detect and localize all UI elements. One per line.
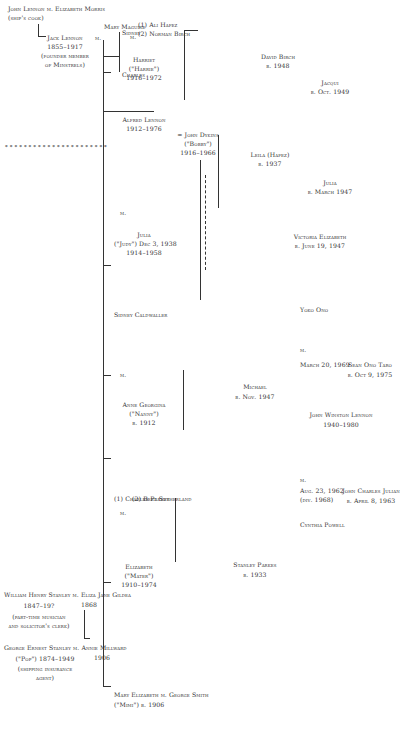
- person-yoko-ono: Yoko Ono: [300, 305, 328, 314]
- connector: [103, 40, 104, 80]
- dates: 1916–1972: [114, 73, 174, 82]
- married-label: m.: [47, 5, 53, 12]
- connector: [183, 370, 184, 430]
- connector: [200, 160, 201, 300]
- person-elizabeth: Elizabeth: [114, 562, 164, 571]
- married-label: m.: [120, 508, 126, 517]
- person-john-dykins: = John Dykins: [168, 130, 228, 139]
- person-julia-dykins: Julia: [300, 178, 360, 187]
- person-alfred-lennon: Alfred Lennon: [114, 115, 174, 124]
- connector: [103, 80, 104, 111]
- person-george-ernest-stanley: George Ernest Stanley: [4, 644, 71, 651]
- connector: [103, 458, 111, 459]
- family-tree-diagram: •••••••••••••••••••••• John Lennon m. El…: [0, 0, 406, 738]
- person-george-smith: George Smith: [169, 691, 209, 698]
- nickname: ("Harrie"): [114, 64, 174, 73]
- spouse-bert-sutherland: (2) Bert Sutherland: [132, 494, 192, 503]
- married-label: m.: [120, 208, 126, 217]
- dates: b. 1937: [240, 159, 300, 168]
- person-eliza-jane-gildea: Eliza Jane Gildea: [81, 591, 131, 598]
- nickname: ("Judy") Dec 3, 1938: [114, 239, 174, 248]
- marriage-year: 1868: [81, 600, 97, 609]
- married-label: m.: [73, 644, 79, 651]
- dates: 1912–1976: [114, 124, 174, 133]
- connector: [103, 582, 111, 583]
- person-harriet: Harriet: [114, 55, 174, 64]
- dates: ("Pop") 1874–1949: [4, 654, 86, 663]
- divorce-date: (div. 1968): [300, 495, 333, 504]
- note: and solicitor's clerk): [4, 621, 74, 630]
- connector: [103, 375, 111, 376]
- dotted-rule: ••••••••••••••••••••••: [4, 142, 108, 151]
- connector: [84, 610, 85, 638]
- dates: b. March 1947: [300, 187, 360, 196]
- connector: [103, 72, 111, 73]
- dates: b. 1912: [114, 418, 174, 427]
- person-sidney-caldwaller: Sidney Caldwaller: [114, 310, 167, 319]
- married-label: m.: [120, 370, 126, 379]
- married-label: m.: [95, 33, 101, 42]
- married-label: m.: [300, 345, 306, 354]
- person-stanley-parkes: Stanley Parkes: [225, 560, 285, 569]
- dashed-connector: [205, 175, 206, 270]
- spouse-ali-hafez: (1) Ali Hafez: [138, 20, 177, 29]
- dates: 1916–1966: [168, 148, 228, 157]
- note: (part-time musician: [4, 612, 74, 621]
- spouse-norman-birch: (2) Norman Birch: [138, 29, 190, 38]
- dates: 1910–1974: [114, 580, 164, 589]
- george-stanley-line: George Ernest Stanley m. Annie Millward: [4, 643, 127, 652]
- nickname: ("Bobby"): [168, 139, 228, 148]
- married-label: m.: [161, 691, 167, 698]
- person-cynthia-powell: Cynthia Powell: [300, 520, 345, 529]
- married-label: m.: [300, 475, 306, 484]
- note: agent): [4, 673, 86, 682]
- connector: [38, 24, 39, 36]
- dates: b. Oct 9, 1975: [340, 370, 400, 379]
- dates: b. April 8, 1963: [336, 496, 406, 505]
- person-annie-millward: Annie Millward: [81, 644, 126, 651]
- person-john-lennon: John Lennon: [8, 5, 45, 12]
- note: (founder member: [36, 51, 94, 60]
- note: of Minstrels): [36, 60, 94, 69]
- person-leila-hafez: Leila (Hafez): [240, 150, 300, 159]
- dates: 1855–1917: [40, 42, 90, 51]
- person-jack-lennon: Jack Lennon: [40, 33, 90, 42]
- connector: [184, 30, 198, 31]
- dates: 1847–19?: [4, 601, 74, 610]
- john-lennon-line: John Lennon m. Elizabeth Morris: [8, 4, 105, 13]
- note: (shipping insurance: [4, 664, 86, 673]
- mary-elizabeth-line: Mary Elizabeth m. George Smith: [114, 690, 209, 699]
- connector: [175, 498, 176, 562]
- nickname: ("Mater"): [114, 571, 164, 580]
- dates: b. June 19, 1947: [280, 241, 360, 250]
- person-john-charles-julian: John Charles Julian: [336, 486, 406, 495]
- connector: [103, 111, 154, 112]
- married-label: m.: [130, 32, 136, 41]
- person-john-winston-lennon: John Winston Lennon: [296, 410, 386, 419]
- person-jacqui: Jacqui: [300, 78, 360, 87]
- john-lennon-note: (ship's cook): [8, 13, 44, 22]
- dates: b. 1948: [248, 61, 308, 70]
- person-david-birch: David Birch: [248, 52, 308, 61]
- person-mary-elizabeth: Mary Elizabeth: [114, 691, 159, 698]
- dates: 1914–1958: [114, 248, 174, 257]
- william-stanley-line: William Henry Stanley m. Eliza Jane Gild…: [4, 590, 131, 599]
- connector: [103, 686, 111, 687]
- person-sean-ono-taro: Sean Ono Taro: [340, 360, 400, 369]
- person-william-henry-stanley: William Henry Stanley: [4, 591, 71, 598]
- dates: b. 1933: [225, 570, 285, 579]
- person-victoria-elizabeth: Victoria Elizabeth: [280, 232, 360, 241]
- connector: [218, 135, 219, 208]
- dates: b. Nov. 1947: [225, 392, 285, 401]
- dates: b. Oct. 1949: [300, 87, 360, 96]
- person-elizabeth-morris: Elizabeth Morris: [55, 5, 105, 12]
- dates: 1940–1980: [296, 420, 386, 429]
- connector: [84, 638, 90, 639]
- connector: [184, 30, 185, 100]
- person-anne-georgina: Anne Georgina: [114, 400, 174, 409]
- dates: ("Mimi") b. 1906: [114, 700, 164, 709]
- nickname: ("Nanny"): [114, 409, 174, 418]
- siblings-trunk: [103, 111, 104, 686]
- connector: [103, 265, 111, 266]
- married-label: m.: [73, 591, 79, 598]
